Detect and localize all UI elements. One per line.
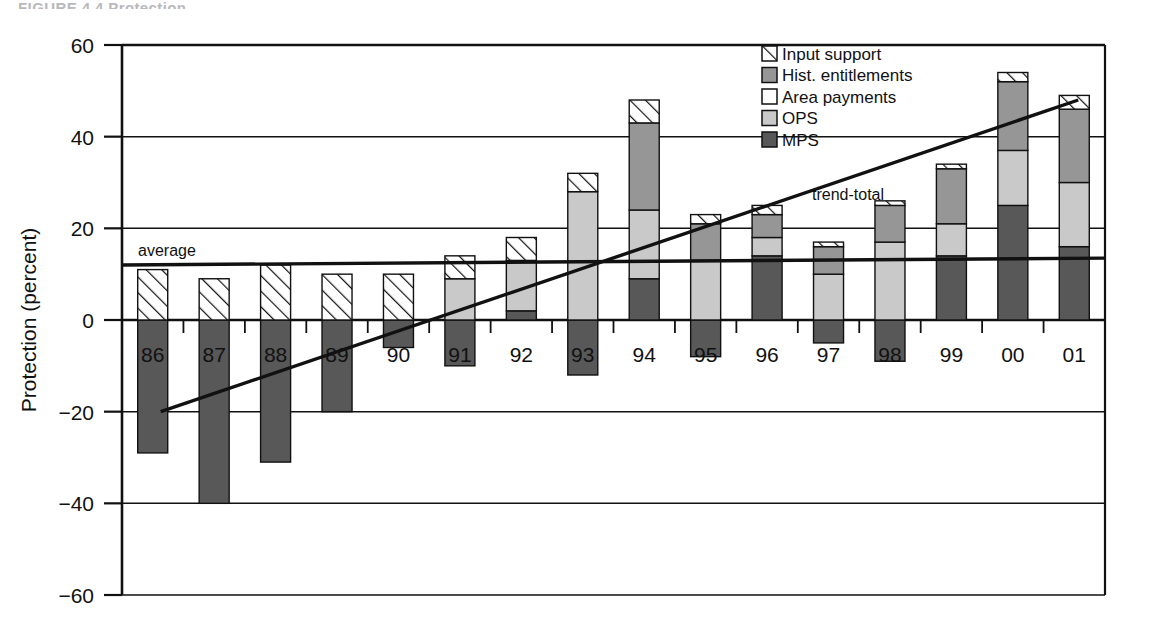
legend-label: OPS bbox=[782, 109, 818, 128]
bar-segment-hist-entitlements[interactable] bbox=[1059, 109, 1089, 182]
bar-segment-ops[interactable] bbox=[568, 192, 598, 320]
x-tick-label: 91 bbox=[448, 343, 471, 366]
legend-swatch-mps bbox=[762, 132, 777, 147]
x-tick-label: 99 bbox=[940, 343, 963, 366]
bar-segment-ops[interactable] bbox=[998, 150, 1028, 205]
bar-segment-mps[interactable] bbox=[814, 320, 844, 343]
bar-group[interactable] bbox=[875, 201, 905, 361]
bar-segment-input-support[interactable] bbox=[261, 265, 291, 320]
y-axis-ticks bbox=[104, 45, 122, 595]
x-tick-label: 98 bbox=[878, 343, 901, 366]
legend-item[interactable]: MPS bbox=[762, 131, 819, 150]
bar-segment-hist-entitlements[interactable] bbox=[752, 215, 782, 238]
legend-label: Hist. entitlements bbox=[782, 66, 912, 85]
bar-segment-hist-entitlements[interactable] bbox=[629, 123, 659, 210]
y-tick-label: 40 bbox=[71, 126, 94, 149]
y-axis-title: Protection (percent) bbox=[17, 228, 40, 412]
x-tick-label: 96 bbox=[755, 343, 778, 366]
bar-segment-ops[interactable] bbox=[752, 238, 782, 256]
legend-swatch-area-payments bbox=[762, 89, 777, 104]
bar-segment-mps[interactable] bbox=[629, 279, 659, 320]
bar-group[interactable] bbox=[383, 274, 413, 347]
bar-segment-mps[interactable] bbox=[506, 311, 536, 320]
legend-label: Input support bbox=[782, 45, 882, 64]
x-tick-label: 95 bbox=[694, 343, 717, 366]
y-tick-label: 60 bbox=[71, 34, 94, 57]
bar-group[interactable] bbox=[814, 242, 844, 343]
bar-segment-hist-entitlements[interactable] bbox=[998, 82, 1028, 151]
bar-group[interactable] bbox=[998, 73, 1028, 321]
legend-swatch-hist-entitlements bbox=[762, 68, 777, 83]
bar-segment-hist-entitlements[interactable] bbox=[936, 169, 966, 224]
bar-segment-input-support[interactable] bbox=[506, 238, 536, 261]
bar-segment-ops[interactable] bbox=[875, 242, 905, 320]
y-tick-label: −20 bbox=[58, 401, 94, 424]
bar-segment-mps[interactable] bbox=[752, 256, 782, 320]
bar-group[interactable] bbox=[629, 100, 659, 320]
legend-item[interactable]: OPS bbox=[762, 109, 818, 128]
bar-segment-input-support[interactable] bbox=[383, 274, 413, 320]
bar-segment-input-support[interactable] bbox=[322, 274, 352, 320]
bar-segment-mps[interactable] bbox=[261, 320, 291, 462]
x-tick-label: 86 bbox=[141, 343, 164, 366]
bar-segment-input-support[interactable] bbox=[629, 100, 659, 123]
bar-group[interactable] bbox=[752, 205, 782, 320]
bar-group[interactable] bbox=[506, 238, 536, 321]
protection-stacked-bar-chart: 6040200−20−40−60 86878889909192939495969… bbox=[0, 0, 1153, 628]
x-tick-label: 94 bbox=[633, 343, 657, 366]
y-axis-tick-labels: 6040200−20−40−60 bbox=[58, 34, 94, 607]
figure-root: FIGURE 4.4 Protection 6040200−20−40−60 8… bbox=[0, 0, 1153, 628]
x-tick-label: 87 bbox=[202, 343, 225, 366]
x-tick-label: 93 bbox=[571, 343, 594, 366]
bar-segment-ops[interactable] bbox=[691, 260, 721, 320]
bar-group[interactable] bbox=[936, 164, 966, 320]
bar-segment-mps[interactable] bbox=[936, 256, 966, 320]
y-tick-label: 20 bbox=[71, 217, 94, 240]
y-tick-label: −60 bbox=[58, 584, 94, 607]
x-tick-label: 88 bbox=[264, 343, 287, 366]
bar-segment-input-support[interactable] bbox=[199, 279, 229, 320]
y-tick-label: 0 bbox=[82, 309, 94, 332]
bar-segment-input-support[interactable] bbox=[568, 173, 598, 191]
x-tick-label: 92 bbox=[510, 343, 533, 366]
bar-segment-hist-entitlements[interactable] bbox=[875, 205, 905, 242]
y-tick-label: −40 bbox=[58, 492, 94, 515]
bar-segment-input-support[interactable] bbox=[936, 164, 966, 169]
legend-label: Area payments bbox=[782, 88, 896, 107]
legend-label: MPS bbox=[782, 131, 819, 150]
bar-segment-input-support[interactable] bbox=[998, 73, 1028, 82]
legend-item[interactable]: Area payments bbox=[762, 88, 896, 107]
x-tick-label: 90 bbox=[387, 343, 410, 366]
bar-segment-input-support[interactable] bbox=[814, 242, 844, 247]
bar-segment-mps[interactable] bbox=[138, 320, 168, 453]
bar-segment-mps[interactable] bbox=[998, 205, 1028, 320]
bar-segment-input-support[interactable] bbox=[138, 270, 168, 320]
legend-item[interactable]: Hist. entitlements bbox=[762, 66, 912, 85]
legend-swatch-ops bbox=[762, 111, 777, 126]
bar-segment-ops[interactable] bbox=[1059, 183, 1089, 247]
bar-segment-ops[interactable] bbox=[936, 224, 966, 256]
bar-segment-ops[interactable] bbox=[814, 274, 844, 320]
average-label: average bbox=[138, 242, 196, 259]
trend-total-label: trend-total bbox=[812, 186, 884, 203]
x-tick-label: 01 bbox=[1063, 343, 1086, 366]
bar-group[interactable] bbox=[1059, 95, 1089, 320]
bar-group[interactable] bbox=[691, 215, 721, 357]
legend-swatch-input-support bbox=[762, 46, 777, 61]
x-tick-label: 97 bbox=[817, 343, 840, 366]
bar-segment-input-support[interactable] bbox=[445, 256, 475, 279]
x-tick-label: 00 bbox=[1001, 343, 1024, 366]
